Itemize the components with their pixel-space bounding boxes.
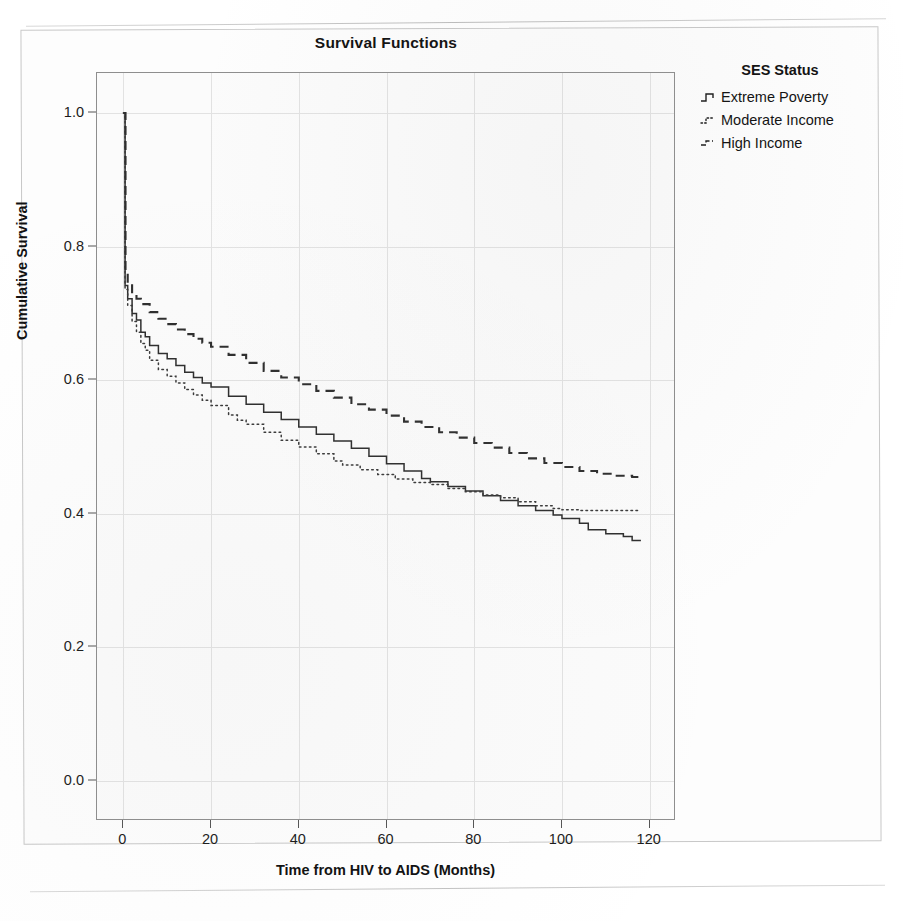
y-tick-label: 1.0 (38, 104, 84, 120)
legend: SES Status Extreme PovertyModerate Incom… (700, 62, 880, 156)
y-tick-label: 0.2 (38, 638, 84, 654)
legend-swatch-dotted-icon (700, 113, 720, 127)
page-scan-edge-bottom (30, 885, 885, 893)
x-axis-ticks: 020406080100120 (96, 820, 675, 860)
y-axis-ticks: 0.00.20.40.60.81.0 (38, 72, 96, 820)
legend-title: SES Status (700, 62, 860, 78)
survival-curve-extreme-poverty (123, 113, 641, 540)
y-tick-mark (88, 512, 96, 513)
y-tick-label: 0.8 (38, 238, 84, 254)
legend-items: Extreme PovertyModerate IncomeHigh Incom… (700, 87, 880, 152)
legend-item-moderate-income[interactable]: Moderate Income (700, 110, 880, 129)
y-tick-mark (88, 112, 96, 113)
x-tick-mark (649, 820, 650, 828)
x-tick-label: 120 (624, 831, 674, 847)
y-axis-title: Cumulative Survival (14, 201, 30, 340)
x-tick-mark (210, 820, 211, 828)
legend-swatch-dashed-icon (700, 136, 720, 150)
x-tick-mark (561, 820, 562, 828)
legend-item-label: Extreme Poverty (721, 89, 828, 105)
x-tick-label: 60 (361, 831, 411, 847)
x-tick-mark (122, 820, 123, 828)
legend-item-label: Moderate Income (721, 112, 834, 128)
x-tick-mark (473, 820, 474, 828)
y-tick-label: 0.6 (38, 371, 84, 387)
y-tick-mark (88, 245, 96, 246)
x-tick-label: 40 (273, 831, 323, 847)
x-tick-label: 0 (97, 831, 147, 847)
x-tick-label: 20 (185, 831, 235, 847)
x-tick-label: 100 (536, 831, 586, 847)
x-tick-label: 80 (448, 831, 498, 847)
y-tick-mark (88, 379, 96, 380)
x-axis-title: Time from HIV to AIDS (Months) (96, 862, 675, 878)
survival-curves (97, 73, 675, 820)
legend-item-extreme-poverty[interactable]: Extreme Poverty (700, 87, 880, 106)
plot-area (96, 72, 675, 820)
y-tick-mark (88, 779, 96, 780)
y-tick-mark (88, 646, 96, 647)
y-tick-label: 0.0 (38, 772, 84, 788)
legend-item-label: High Income (721, 135, 802, 151)
survival-curve-high-income (123, 113, 641, 477)
page-scan-edge-top (26, 18, 886, 27)
y-tick-label: 0.4 (38, 505, 84, 521)
x-tick-mark (386, 820, 387, 828)
legend-item-high-income[interactable]: High Income (700, 133, 880, 152)
chart-title: Survival Functions (96, 34, 676, 52)
survival-curve-moderate-income (123, 113, 641, 510)
x-tick-mark (298, 820, 299, 828)
legend-swatch-solid-icon (700, 90, 720, 104)
